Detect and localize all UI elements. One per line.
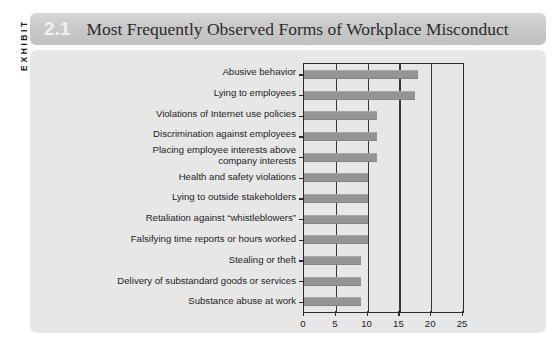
- category-label: Stealing or theft: [108, 250, 300, 271]
- category-labels: Abusive behaviorLying to employeesViolat…: [108, 62, 300, 312]
- bar-chart: Abusive behaviorLying to employeesViolat…: [30, 50, 546, 333]
- bar: [304, 277, 361, 286]
- category-label: Substance abuse at work: [108, 291, 300, 312]
- bar-series: [304, 64, 463, 312]
- bar: [304, 132, 377, 141]
- bar: [304, 297, 361, 306]
- bar-slot: [304, 229, 463, 250]
- category-label-text: Lying to outside stakeholders: [172, 192, 296, 203]
- category-label-text: Falsifying time reports or hours worked: [131, 234, 296, 245]
- bar-slot: [304, 85, 463, 106]
- x-axis-tick-label: 0: [300, 318, 305, 329]
- category-label: Health and safety violations: [108, 167, 300, 188]
- plot-area: [303, 63, 464, 313]
- bar-slot: [304, 250, 463, 271]
- category-label: Violations of Internet use policies: [108, 104, 300, 125]
- category-label-text: Violations of Internet use policies: [156, 109, 296, 120]
- category-label-text: Abusive behavior: [222, 67, 296, 78]
- exhibit-header-bar: 2.1 Most Frequently Observed Forms of Wo…: [30, 13, 546, 45]
- page-title: Most Frequently Observed Forms of Workpl…: [86, 19, 508, 40]
- exhibit-number: 2.1: [44, 18, 70, 40]
- bar-slot: [304, 291, 463, 312]
- category-label: Retaliation against “whistleblowers”: [108, 208, 300, 229]
- x-axis-tick: [367, 311, 368, 316]
- category-label-text: Lying to employees: [214, 88, 296, 99]
- bar-slot: [304, 209, 463, 230]
- x-axis-tick-label: 25: [457, 318, 468, 329]
- exhibit-side-label: EXHIBIT: [19, 5, 29, 85]
- bar: [304, 91, 415, 100]
- bar-slot: [304, 271, 463, 292]
- category-label-text: Health and safety violations: [179, 172, 296, 183]
- category-label: Discrimination against employees: [108, 124, 300, 145]
- bar: [304, 153, 377, 162]
- bar: [304, 235, 368, 244]
- x-axis-tick-label: 20: [425, 318, 436, 329]
- bar-slot: [304, 167, 463, 188]
- x-axis-tick: [430, 311, 431, 316]
- x-axis-tick-label: 15: [393, 318, 404, 329]
- category-label: Lying to employees: [108, 83, 300, 104]
- category-label-text: Delivery of substandard goods or service…: [117, 276, 296, 287]
- category-label-text: Substance abuse at work: [188, 296, 296, 307]
- x-axis-tick-label: 10: [361, 318, 372, 329]
- category-label-text: Discrimination against employees: [153, 129, 296, 140]
- bar: [304, 173, 368, 182]
- category-label-text: Retaliation against “whistleblowers”: [146, 213, 296, 224]
- category-label: Delivery of substandard goods or service…: [108, 271, 300, 292]
- bar: [304, 70, 418, 79]
- x-axis: 0510152025: [303, 311, 464, 333]
- x-axis-tick: [303, 311, 304, 316]
- bar-slot: [304, 105, 463, 126]
- category-label: Abusive behavior: [108, 62, 300, 83]
- category-label-text: Placing employee interests abovecompany …: [153, 145, 296, 166]
- bar: [304, 256, 361, 265]
- x-axis-tick: [335, 311, 336, 316]
- x-axis-tick-label: 5: [332, 318, 337, 329]
- category-label: Falsifying time reports or hours worked: [108, 229, 300, 250]
- bar-slot: [304, 147, 463, 168]
- x-axis-tick: [462, 311, 463, 316]
- bar: [304, 194, 368, 203]
- category-label-text: Stealing or theft: [229, 255, 296, 266]
- category-label: Lying to outside stakeholders: [108, 187, 300, 208]
- bar: [304, 111, 377, 120]
- bar-slot: [304, 64, 463, 85]
- bar-slot: [304, 188, 463, 209]
- bar-slot: [304, 126, 463, 147]
- x-axis-tick: [398, 311, 399, 316]
- category-label: Placing employee interests abovecompany …: [108, 145, 300, 166]
- exhibit-container: EXHIBIT 2.1 Most Frequently Observed For…: [0, 0, 552, 349]
- bar: [304, 215, 368, 224]
- chart-panel: Abusive behaviorLying to employeesViolat…: [30, 50, 546, 333]
